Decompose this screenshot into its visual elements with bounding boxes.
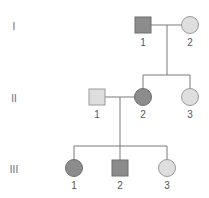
generation-labels: IIIIII	[10, 21, 18, 175]
unaffected-male-square-icon	[89, 89, 105, 105]
unaffected-female-circle-icon	[159, 160, 176, 177]
individual-i-2: 2	[182, 17, 199, 49]
individual-iii-2: 2	[112, 160, 128, 191]
individual-iii-3: 3	[159, 160, 176, 192]
generation-label-iii: III	[10, 164, 18, 175]
individual-number: 1	[140, 37, 146, 48]
affected-male-square-icon	[135, 17, 151, 33]
individual-number: 1	[71, 180, 77, 191]
individual-iii-1: 1	[66, 160, 83, 192]
affected-female-circle-icon	[135, 89, 152, 106]
affected-male-square-icon	[112, 160, 128, 176]
individual-ii-1: 1	[89, 89, 105, 120]
individuals: 12123123	[66, 17, 199, 192]
individual-number: 1	[94, 109, 100, 120]
individual-number: 2	[187, 37, 193, 48]
generation-label-ii: II	[11, 93, 17, 104]
individual-number: 2	[117, 180, 123, 191]
pedigree-diagram: IIIIII 12123123	[0, 0, 209, 198]
unaffected-female-circle-icon	[182, 89, 199, 106]
individual-ii-2: 2	[135, 89, 152, 121]
affected-female-circle-icon	[66, 160, 83, 177]
individual-number: 3	[187, 109, 193, 120]
individual-ii-3: 3	[182, 89, 199, 121]
unaffected-female-circle-icon	[182, 17, 199, 34]
individual-number: 2	[140, 109, 146, 120]
individual-i-1: 1	[135, 17, 151, 48]
generation-label-i: I	[13, 21, 16, 32]
individual-number: 3	[164, 180, 170, 191]
